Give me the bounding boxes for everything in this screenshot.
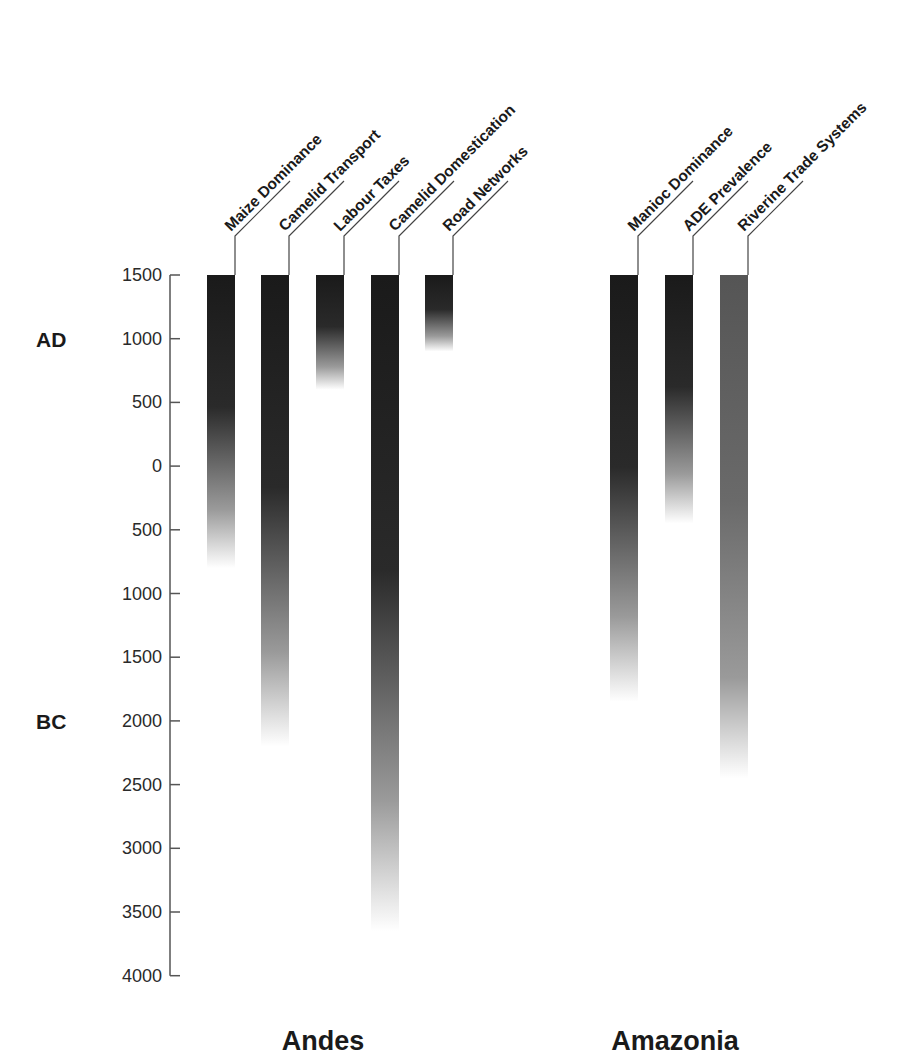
bar-road-networks — [425, 275, 453, 351]
era-label-bc: BC — [36, 710, 66, 733]
era-label-ad: AD — [36, 328, 66, 351]
bar-camelid-domestication — [371, 275, 399, 931]
tick-label: 4000 — [122, 966, 162, 986]
tick-label: 1500 — [122, 265, 162, 285]
region-label-amazonia: Amazonia — [611, 1026, 740, 1056]
era-labels: ADBC — [36, 328, 66, 733]
tick-label: 500 — [132, 392, 162, 412]
bar-ade-prevalence — [665, 275, 693, 523]
bar-label: Maize Dominance — [221, 130, 325, 234]
bar-label: Manioc Dominance — [624, 122, 736, 234]
tick-label: 2000 — [122, 711, 162, 731]
y-axis: 1500100050005001000150020002500300035004… — [122, 265, 180, 986]
bar-label: Camelid Transport — [275, 126, 383, 234]
tick-label: 3500 — [122, 902, 162, 922]
bar-maize-dominance — [207, 275, 235, 568]
region-label-andes: Andes — [282, 1026, 365, 1056]
tick-label: 1000 — [122, 329, 162, 349]
bar-riverine-trade-systems — [720, 275, 748, 778]
tick-label: 0 — [152, 456, 162, 476]
tick-label: 2500 — [122, 775, 162, 795]
timeline-chart: 1500100050005001000150020002500300035004… — [0, 0, 922, 1062]
tick-label: 3000 — [122, 838, 162, 858]
bar-labour-taxes — [316, 275, 344, 390]
tick-label: 1500 — [122, 647, 162, 667]
bar-camelid-transport — [261, 275, 289, 746]
tick-label: 1000 — [122, 584, 162, 604]
bars — [207, 275, 748, 931]
tick-label: 500 — [132, 520, 162, 540]
region-labels: AndesAmazonia — [282, 1026, 740, 1056]
bar-labels: Maize DominanceCamelid TransportLabour T… — [221, 98, 870, 275]
bar-manioc-dominance — [610, 275, 638, 702]
